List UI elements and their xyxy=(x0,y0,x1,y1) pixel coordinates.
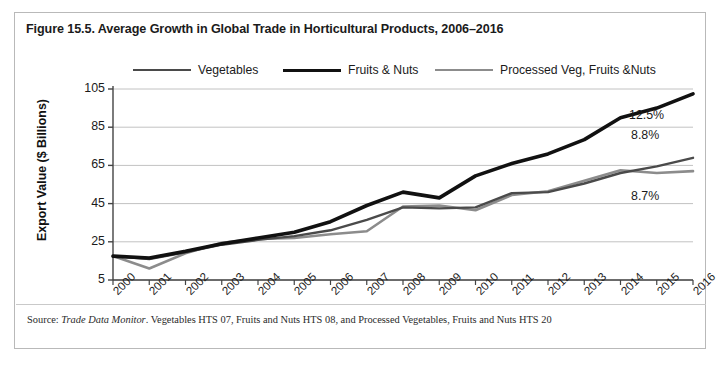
x-tick-label: 2006 xyxy=(328,270,355,297)
plot-area: Export Value ($ Billions) 525456585105 2… xyxy=(15,13,707,350)
growth-annotation-fruits-nuts: 12.5% xyxy=(629,108,664,122)
x-tick-label: 2005 xyxy=(291,270,318,297)
source-rest: . Vegetables HTS 07, Fruits and Nuts HTS… xyxy=(146,314,552,325)
source-italic: Trade Data Monitor xyxy=(61,314,145,325)
x-tick-label: 2011 xyxy=(509,270,536,297)
x-tick-label: 2016 xyxy=(690,270,717,297)
x-tick-label: 2010 xyxy=(473,270,500,297)
x-tick-label: 2013 xyxy=(581,270,608,297)
figure-panel: Figure 15.5. Average Growth in Global Tr… xyxy=(14,12,706,349)
x-tick-label: 2009 xyxy=(436,270,463,297)
x-tick-label: 2012 xyxy=(545,270,572,297)
x-tick-label: 2015 xyxy=(654,270,681,297)
source-prefix: Source: xyxy=(27,314,59,325)
x-tick-label: 2007 xyxy=(364,270,391,297)
x-tick-label: 2008 xyxy=(400,270,427,297)
x-tick-label: 2014 xyxy=(618,270,645,297)
x-axis-ticks: 2000200120022003200420052006200720082009… xyxy=(15,13,707,350)
x-tick-label: 2002 xyxy=(183,270,210,297)
x-tick-label: 2004 xyxy=(255,270,282,297)
x-tick-label: 2001 xyxy=(146,270,173,297)
source-note: Source: Trade Data Monitor. Vegetables H… xyxy=(27,314,695,325)
growth-annotation-processed-veg-fruits-nuts: 8.7% xyxy=(631,189,659,203)
footer-divider xyxy=(16,304,706,305)
x-tick-label: 2003 xyxy=(219,270,246,297)
x-tick-label: 2000 xyxy=(110,270,137,297)
growth-annotation-vegetables: 8.8% xyxy=(631,128,659,142)
